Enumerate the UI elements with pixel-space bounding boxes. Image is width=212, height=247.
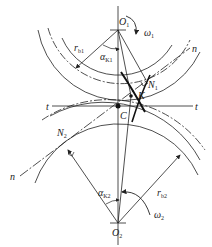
label-k: K [137, 90, 146, 101]
label-n-top: n [192, 43, 197, 54]
label-t-left: t [46, 101, 49, 112]
label-o2: O2 [112, 227, 122, 239]
alpha-k2-arc [106, 200, 119, 204]
label-o1: O1 [119, 16, 129, 28]
label-n1: N1 [147, 79, 158, 91]
label-alpha-k2: αK2 [98, 187, 111, 199]
label-t-right: t [195, 101, 198, 112]
gear1-addendum-circle [38, 30, 200, 101]
gear1-base-circle [62, 38, 172, 75]
label-rb1: rb1 [74, 42, 84, 54]
pitch-point-c [116, 104, 121, 109]
o2-n2-line [68, 150, 118, 223]
label-n-bottom: n [10, 171, 15, 182]
alpha-k1-arc [103, 45, 119, 49]
label-n2: N2 [56, 127, 67, 139]
label-c: C [120, 110, 127, 121]
label-rb2: rb2 [157, 187, 167, 199]
gear2-pitch-circle [42, 100, 205, 150]
label-omega1: ω1 [144, 27, 154, 39]
label-alpha-k1: αK1 [100, 51, 113, 63]
label-omega2: ω2 [154, 209, 164, 221]
line-of-action-n [20, 48, 190, 176]
gear-mesh-diagram: O1 ω1 rb1 αK1 n N1 K t t C N2 n αK2 rb2 … [0, 0, 212, 247]
